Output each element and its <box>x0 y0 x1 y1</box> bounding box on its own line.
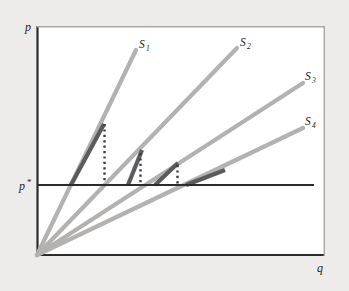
supply-curve-s3-label: S <box>305 70 311 82</box>
supply-curve-s4-label: S <box>305 115 311 127</box>
market-price-label-superscript: * <box>27 177 32 187</box>
x-axis-label: q <box>317 261 323 275</box>
supply-curve-s2-label-subscript: 2 <box>247 42 251 51</box>
chart-canvas: p q p * S 1 S 2 S 3 S 4 <box>0 0 349 291</box>
supply-curve-s1-label: S <box>139 38 145 50</box>
market-price-label: p <box>18 179 25 193</box>
supply-curve-figure: p q p * S 1 S 2 S 3 S 4 <box>0 0 349 291</box>
supply-curve-s4-label-subscript: 4 <box>312 121 316 130</box>
supply-curve-s2-label: S <box>240 36 246 48</box>
y-axis-label: p <box>24 20 31 34</box>
plot-area-background <box>37 26 325 256</box>
supply-curve-s3-label-subscript: 3 <box>311 76 316 85</box>
supply-curve-s1-label-subscript: 1 <box>146 44 150 53</box>
